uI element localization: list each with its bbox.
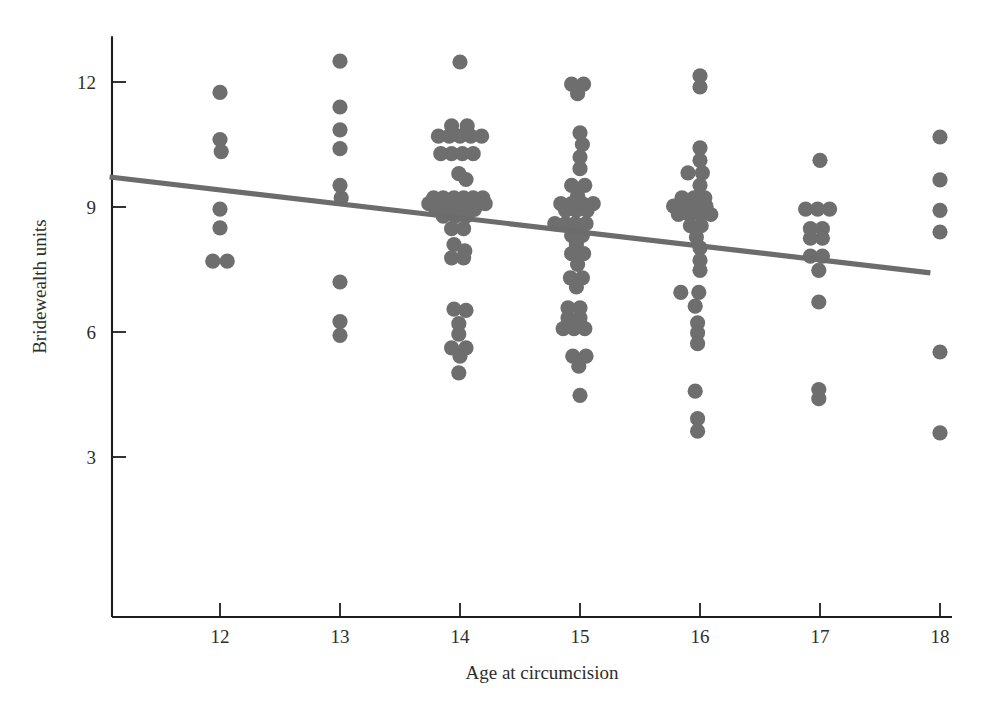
data-point xyxy=(811,391,826,406)
data-point xyxy=(332,141,347,156)
data-point xyxy=(571,359,586,374)
data-point xyxy=(332,122,347,137)
x-tick-label: 17 xyxy=(811,626,830,647)
data-points-layer xyxy=(205,54,947,441)
data-point xyxy=(332,99,347,114)
y-axis-title: Bridewealth units xyxy=(29,219,50,354)
data-point xyxy=(932,129,947,144)
y-tick-label: 9 xyxy=(87,197,97,218)
data-point xyxy=(680,165,695,180)
x-tick-label: 18 xyxy=(931,626,950,647)
data-point xyxy=(452,349,467,364)
data-point xyxy=(451,326,466,341)
data-point xyxy=(456,250,471,265)
data-point xyxy=(815,231,830,246)
data-point xyxy=(932,224,947,239)
plot-canvas: 3691212131415161718Age at circumcisionBr… xyxy=(0,0,988,705)
y-tick-label: 3 xyxy=(87,447,97,468)
data-point xyxy=(451,365,466,380)
data-point xyxy=(932,425,947,440)
data-point xyxy=(212,220,227,235)
x-tick-label: 12 xyxy=(211,626,230,647)
data-point xyxy=(690,424,705,439)
data-point xyxy=(673,285,688,300)
data-point xyxy=(691,285,706,300)
x-tick-label: 15 xyxy=(571,626,590,647)
data-point xyxy=(570,257,585,272)
data-point xyxy=(456,221,471,236)
data-point xyxy=(812,153,827,168)
data-point xyxy=(205,254,220,269)
scatter-plot-figure: 3691212131415161718Age at circumcisionBr… xyxy=(0,0,988,705)
data-point xyxy=(690,336,705,351)
data-point xyxy=(474,129,489,144)
data-point xyxy=(458,172,473,187)
data-point xyxy=(466,146,481,161)
data-point xyxy=(811,294,826,309)
data-point xyxy=(932,172,947,187)
data-point xyxy=(688,299,703,314)
data-point xyxy=(570,86,585,101)
data-point xyxy=(692,263,707,278)
data-point xyxy=(822,201,837,216)
data-point xyxy=(220,254,235,269)
data-point xyxy=(214,144,229,159)
data-point xyxy=(692,79,707,94)
data-point xyxy=(932,203,947,218)
data-point xyxy=(572,161,587,176)
data-point xyxy=(452,54,467,69)
x-tick-label: 14 xyxy=(451,626,471,647)
data-point xyxy=(569,279,584,294)
data-point xyxy=(688,384,703,399)
data-point xyxy=(332,54,347,69)
data-point xyxy=(332,274,347,289)
axes-layer xyxy=(112,36,952,617)
data-point xyxy=(577,321,592,336)
data-point xyxy=(212,201,227,216)
data-point xyxy=(580,203,595,218)
data-point xyxy=(332,328,347,343)
data-point xyxy=(572,388,587,403)
y-tick-label: 6 xyxy=(87,322,97,343)
x-tick-label: 16 xyxy=(691,626,710,647)
data-point xyxy=(212,85,227,100)
y-tick-label: 12 xyxy=(77,72,96,93)
x-tick-label: 13 xyxy=(331,626,350,647)
data-point xyxy=(458,303,473,318)
data-point xyxy=(932,344,947,359)
x-axis-title: Age at circumcision xyxy=(465,662,619,683)
data-point xyxy=(332,314,347,329)
data-point xyxy=(811,263,826,278)
axis-labels-layer: 3691212131415161718Age at circumcisionBr… xyxy=(29,72,950,683)
